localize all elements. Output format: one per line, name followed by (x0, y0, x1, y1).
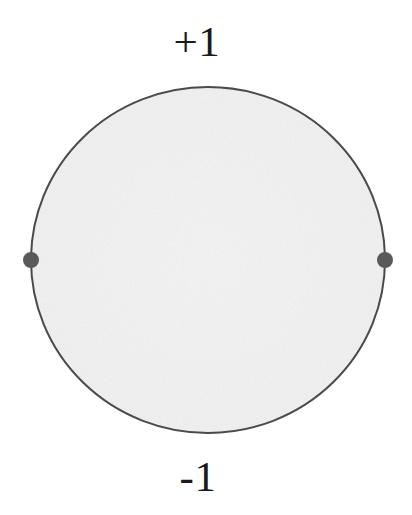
unit-disk-fill (31, 87, 385, 433)
bottom-value-label: -1 (0, 455, 404, 498)
top-value-label: +1 (0, 20, 403, 63)
left-point-marker (23, 252, 39, 268)
circle-plot-canvas (0, 0, 412, 515)
unit-disk-group (31, 87, 385, 433)
unit-circle-figure: +1 -1 (0, 0, 412, 515)
right-point-marker (377, 252, 393, 268)
